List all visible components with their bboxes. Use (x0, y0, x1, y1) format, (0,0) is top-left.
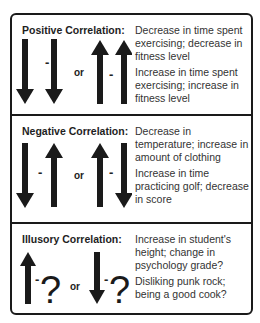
illusory-correlation-section: Illusory Correlation: - ? or - ? Increas… (12, 224, 251, 313)
negative-correlation-examples: Decrease in temperature; increase in amo… (135, 125, 253, 209)
correlation-types-panel: Positive Correlation: - or - (10, 13, 253, 315)
arrow-down-icon (45, 39, 63, 104)
arrow-down-icon (115, 143, 132, 208)
or-label: or (70, 281, 80, 292)
connector-dash: - (45, 55, 49, 70)
or-label: or (74, 67, 84, 78)
positive-correlation-examples: Decrease in time spent exercising; decre… (135, 24, 253, 108)
arrow-up-icon (20, 252, 36, 304)
example-text: Disliking punk rock; being a good cook? (135, 275, 253, 301)
question-mark-icon: ? (109, 269, 130, 311)
example-text: Increase in time practicing golf; decrea… (135, 167, 253, 206)
positive-correlation-section: Positive Correlation: - or - (12, 15, 251, 114)
arrow-up-icon (115, 40, 132, 104)
illusory-correlation-examples: Increase in student's height; change in … (135, 233, 253, 304)
arrow-down-icon (89, 252, 105, 304)
example-text: Increase in student's height; change in … (135, 233, 253, 272)
positive-correlation-arrows: - or - (12, 15, 132, 114)
connector-dash: - (109, 67, 113, 82)
example-text: Decrease in temperature; increase in amo… (135, 125, 253, 164)
arrow-down-icon (16, 143, 34, 208)
example-text: Increase in time spent exercising; incre… (135, 66, 253, 105)
connector-dash: - (104, 272, 108, 287)
arrow-up-icon (45, 143, 63, 207)
negative-correlation-arrows: - or - (12, 116, 132, 222)
arrow-up-icon (91, 143, 109, 207)
connector-dash: - (38, 165, 42, 180)
connector-dash: - (35, 272, 39, 287)
negative-correlation-section: Negative Correlation: - or - Decr (12, 116, 251, 222)
example-text: Decrease in time spent exercising; decre… (135, 24, 253, 63)
or-label: or (74, 170, 84, 181)
question-mark-icon: ? (40, 269, 61, 311)
arrow-down-icon (16, 39, 34, 104)
arrow-up-icon (91, 40, 109, 104)
connector-dash: - (109, 165, 113, 180)
illusory-correlation-symbols: - ? or - ? (12, 224, 132, 313)
